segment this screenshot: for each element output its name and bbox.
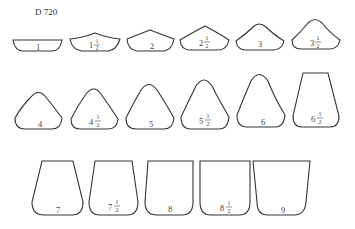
shape-7-5: 7 1 2 — [89, 161, 138, 215]
shape-6: 6 — [237, 75, 285, 128]
svg-text:9: 9 — [281, 205, 285, 215]
shape-2: 2 — [127, 30, 174, 51]
svg-text:5: 5 — [149, 119, 153, 129]
svg-text:2: 2 — [206, 43, 209, 49]
svg-text:2: 2 — [96, 45, 99, 51]
shape-label: 1 — [36, 42, 40, 52]
svg-text:7: 7 — [108, 202, 112, 212]
shape-4: 4 — [15, 92, 62, 129]
svg-text:6: 6 — [261, 117, 265, 127]
svg-text:1: 1 — [97, 114, 100, 120]
shape-6-5: 6 1 2 — [293, 73, 339, 127]
svg-text:3: 3 — [310, 38, 314, 48]
svg-text:6: 6 — [311, 114, 315, 124]
shape-1: 1 — [13, 40, 62, 52]
svg-text:1: 1 — [317, 35, 320, 41]
svg-text:1: 1 — [96, 38, 99, 44]
svg-text:1: 1 — [319, 111, 322, 117]
shape-series-diagram: 1 1 1 2 2 2 1 2 3 3 1 2 4 4 1 2 — [0, 0, 355, 229]
svg-text:2: 2 — [97, 122, 100, 128]
shape-5-5: 5 1 2 — [181, 80, 229, 129]
svg-text:2: 2 — [317, 43, 320, 49]
svg-text:1: 1 — [206, 35, 209, 41]
svg-text:1: 1 — [89, 40, 93, 50]
shape-5: 5 — [126, 85, 174, 130]
shape-1-5: 1 1 2 — [70, 33, 120, 51]
svg-text:8: 8 — [168, 204, 172, 214]
shape-8-5: 8 1 2 — [200, 161, 250, 215]
svg-text:1: 1 — [207, 113, 210, 119]
shape-4-5: 4 1 2 — [71, 89, 118, 129]
shape-3: 3 — [236, 24, 284, 50]
shape-2-5: 2 1 2 — [180, 26, 229, 50]
shape-9: 9 — [253, 161, 310, 215]
svg-text:8: 8 — [220, 203, 224, 213]
shape-8: 8 — [145, 161, 193, 215]
svg-text:2: 2 — [199, 38, 203, 48]
svg-text:1: 1 — [228, 200, 231, 206]
svg-text:2: 2 — [116, 207, 119, 213]
svg-text:2: 2 — [207, 121, 210, 127]
shape-7: 7 — [32, 161, 83, 215]
svg-text:2: 2 — [319, 119, 322, 125]
svg-text:3: 3 — [258, 39, 262, 49]
svg-text:2: 2 — [228, 208, 231, 214]
svg-text:7: 7 — [56, 205, 60, 215]
svg-text:1: 1 — [116, 199, 119, 205]
svg-text:2: 2 — [150, 41, 154, 51]
shape-3-5: 3 1 2 — [292, 20, 340, 50]
svg-text:5: 5 — [199, 116, 203, 126]
